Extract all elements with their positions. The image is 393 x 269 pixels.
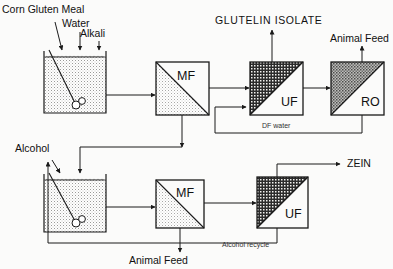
unit-label-ro: RO: [361, 96, 380, 109]
unit-label-mf-top: MF: [177, 70, 195, 83]
label-alkali: Alkali: [80, 28, 105, 39]
label-animal-feed-bottom: Animal Feed: [129, 255, 188, 266]
corn-gluten-meal-feed-line: [55, 22, 62, 50]
unit-label-uf-top: UF: [281, 96, 298, 109]
label-alcohol: Alcohol: [15, 143, 49, 154]
alkali-extraction-tank: [44, 50, 106, 113]
label-alcohol-recycle: Alcohol recycle: [222, 241, 269, 248]
unit-label-uf-bottom: UF: [285, 208, 302, 221]
unit-label-mf-bottom: MF: [176, 187, 194, 200]
label-zein: ZEIN: [347, 158, 371, 169]
label-corn-gluten-meal: Corn Gluten Meal: [2, 4, 84, 15]
df-water-recycle-line: [215, 107, 362, 133]
mf-top-underflow-branch: [80, 147, 182, 173]
alcohol-extraction-tank: [44, 173, 106, 232]
process-flow-diagram: Corn Gluten Meal Water Alkali GLUTELIN I…: [0, 0, 393, 269]
label-animal-feed-top: Animal Feed: [330, 33, 389, 44]
label-df-water: DF water: [262, 122, 290, 129]
zein-product-line: [277, 164, 340, 177]
label-glutelin-isolate: GLUTELIN ISOLATE: [215, 15, 322, 26]
alcohol-feed-line: [52, 160, 60, 173]
